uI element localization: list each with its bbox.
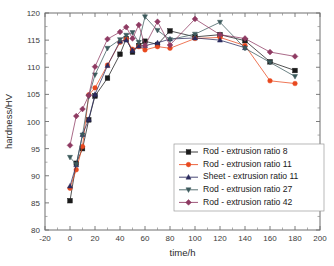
marker-circle	[93, 86, 98, 91]
data-marker	[105, 76, 110, 81]
legend-label: Rod - extrusion ratio 11	[203, 159, 292, 169]
data-marker	[68, 198, 73, 203]
series-line	[70, 19, 295, 145]
x-tick-label: 180	[288, 234, 302, 243]
y-tick-label: 90	[31, 172, 40, 181]
legend-label: Rod - extrusion ratio 42	[203, 197, 293, 207]
series-4	[67, 16, 298, 148]
y-tick-label: 110	[27, 63, 40, 72]
marker-diamond	[92, 64, 98, 70]
y-tick-label: 115	[27, 36, 40, 45]
x-tick-label: 140	[238, 234, 252, 243]
data-marker	[186, 162, 191, 167]
marker-triangle-down	[155, 28, 160, 33]
y-tick-label: 95	[31, 145, 40, 154]
x-tick-label: 40	[116, 234, 125, 243]
data-marker	[105, 36, 111, 42]
data-marker	[267, 49, 273, 55]
data-marker	[92, 64, 98, 70]
marker-square	[118, 52, 123, 57]
marker-diamond	[105, 36, 111, 42]
data-marker	[292, 54, 298, 60]
marker-diamond	[155, 19, 161, 25]
marker-triangle-down	[105, 46, 110, 51]
data-marker	[118, 52, 123, 57]
x-tick-label: 100	[188, 234, 202, 243]
x-tick-label: -20	[39, 234, 51, 243]
marker-triangle-down	[292, 75, 297, 80]
x-axis-title: time/h	[170, 247, 196, 258]
data-marker	[93, 86, 98, 91]
marker-square	[68, 198, 73, 203]
chart-legend: Rod - extrusion ratio 8Rod - extrusion r…	[174, 144, 324, 211]
y-tick-label: 120	[27, 9, 41, 18]
y-tick-label: 80	[31, 226, 40, 235]
y-tick-label: 105	[27, 90, 41, 99]
legend-label: Rod - extrusion ratio 8	[203, 146, 288, 156]
x-tick-label: 120	[213, 234, 227, 243]
y-tick-label: 85	[31, 199, 40, 208]
data-marker	[155, 19, 161, 25]
data-marker	[186, 150, 191, 155]
marker-diamond	[292, 54, 298, 60]
hardness-vs-time-chart: -200204060801001201401601802008085909510…	[0, 0, 334, 266]
marker-square	[168, 29, 173, 34]
marker-circle	[268, 79, 273, 84]
marker-circle	[80, 144, 85, 149]
series-line	[70, 17, 295, 165]
marker-square	[186, 150, 191, 155]
x-tick-label: 200	[313, 234, 327, 243]
data-marker	[136, 22, 142, 28]
data-marker	[293, 81, 298, 86]
data-marker	[168, 29, 173, 34]
marker-circle	[186, 162, 191, 167]
marker-square	[293, 68, 298, 73]
chart-svg: -200204060801001201401601802008085909510…	[0, 0, 334, 266]
x-tick-label: 160	[263, 234, 277, 243]
data-marker	[293, 68, 298, 73]
data-marker	[292, 75, 297, 80]
y-tick-label: 100	[27, 118, 41, 127]
data-marker	[80, 144, 85, 149]
x-tick-label: 80	[166, 234, 175, 243]
data-marker	[105, 46, 110, 51]
marker-diamond	[267, 49, 273, 55]
data-marker	[67, 142, 73, 148]
x-tick-label: 0	[68, 234, 73, 243]
marker-diamond	[136, 22, 142, 28]
data-marker	[155, 28, 160, 33]
marker-diamond	[67, 142, 73, 148]
x-tick-label: 20	[91, 234, 100, 243]
legend-label: Rod - extrusion ratio 27	[203, 184, 293, 194]
legend-label: Sheet - extrusion ratio 11	[203, 171, 299, 181]
marker-circle	[293, 81, 298, 86]
marker-square	[105, 76, 110, 81]
data-marker	[268, 79, 273, 84]
marker-diamond	[130, 36, 136, 42]
x-tick-label: 60	[141, 234, 150, 243]
data-marker	[130, 36, 136, 42]
y-axis-title: hardness/HV	[3, 93, 14, 149]
